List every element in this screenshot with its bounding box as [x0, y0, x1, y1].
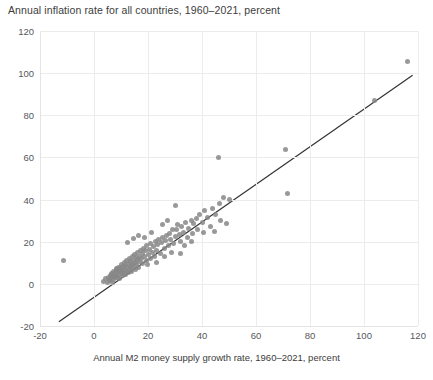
scatter-point [200, 220, 205, 225]
scatter-point [191, 221, 196, 226]
scatter-point [61, 258, 66, 263]
scatter-point [182, 243, 187, 248]
scatter-point [213, 212, 218, 217]
scatter-point [217, 201, 222, 206]
scatter-point [285, 191, 290, 196]
scatter-point [224, 221, 229, 226]
chart-title: Annual inflation rate for all countries,… [8, 4, 280, 16]
gridline-horizontal [40, 31, 418, 32]
gridline-vertical [418, 31, 419, 326]
gridline-horizontal [40, 242, 418, 243]
x-axis-tick-label: 80 [305, 330, 316, 341]
regression-trendline [40, 31, 418, 326]
scatter-point [210, 206, 215, 211]
scatter-point [131, 236, 136, 241]
scatter-point [190, 231, 195, 236]
gridline-vertical [202, 31, 203, 326]
scatter-point [178, 251, 183, 256]
scatter-point [169, 250, 174, 255]
scatter-point [201, 230, 206, 235]
scatter-point [372, 98, 377, 103]
y-axis-tick-label: 0 [0, 278, 34, 289]
x-axis-tick-label: -20 [33, 330, 47, 341]
scatter-point [189, 239, 194, 244]
scatter-point [216, 155, 221, 160]
y-axis-tick-label: 120 [0, 26, 34, 37]
scatter-point [202, 208, 207, 213]
scatter-point [212, 229, 217, 234]
scatter-point [227, 197, 232, 202]
y-axis-tick-label: 20 [0, 236, 34, 247]
scatter-point [166, 243, 171, 248]
x-axis-tick-label: 0 [91, 330, 96, 341]
scatter-point [205, 215, 210, 220]
scatter-point [136, 233, 141, 238]
x-axis-tick-label: 40 [197, 330, 208, 341]
scatter-point [173, 203, 178, 208]
gridline-horizontal [40, 326, 418, 327]
gridline-vertical [148, 31, 149, 326]
y-axis-tick-label: 100 [0, 68, 34, 79]
gridline-horizontal [40, 157, 418, 158]
scatter-point [142, 235, 147, 240]
scatter-point [179, 224, 184, 229]
scatter-point [195, 227, 200, 232]
x-axis-tick-label: 120 [410, 330, 426, 341]
x-axis-tick-label: 100 [356, 330, 372, 341]
gridline-vertical [40, 31, 41, 326]
x-axis-tick-label: 60 [251, 330, 262, 341]
scatter-point [181, 230, 186, 235]
scatter-point [125, 240, 130, 245]
scatter-point [145, 262, 150, 267]
gridline-horizontal [40, 73, 418, 74]
scatter-point [405, 59, 410, 64]
scatter-point [152, 254, 157, 259]
scatter-point [183, 220, 188, 225]
scatter-point [197, 212, 202, 217]
gridline-vertical [364, 31, 365, 326]
y-axis-tick-label: 40 [0, 194, 34, 205]
scatter-point [149, 230, 154, 235]
scatter-point [174, 227, 179, 232]
scatter-point [154, 260, 159, 265]
scatter-chart: Annual inflation rate for all countries,… [0, 0, 433, 380]
gridline-vertical [310, 31, 311, 326]
gridline-vertical [256, 31, 257, 326]
scatter-point [171, 241, 176, 246]
gridline-vertical [94, 31, 95, 326]
y-axis-tick-label: -20 [0, 321, 34, 332]
scatter-point [283, 147, 288, 152]
gridline-horizontal [40, 284, 418, 285]
scatter-point [218, 218, 223, 223]
x-axis-tick-label: 20 [143, 330, 154, 341]
y-axis-tick-label: 80 [0, 110, 34, 121]
y-axis-tick-label: 60 [0, 152, 34, 163]
scatter-point [160, 222, 165, 227]
plot-area [40, 31, 418, 326]
x-axis-title: Annual M2 money supply growth rate, 1960… [0, 352, 433, 363]
gridline-horizontal [40, 115, 418, 116]
scatter-point [165, 218, 170, 223]
scatter-point [162, 254, 167, 259]
